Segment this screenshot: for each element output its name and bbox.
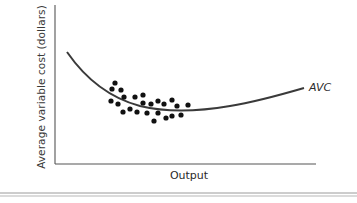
data-point xyxy=(140,92,145,97)
data-point xyxy=(151,118,156,123)
data-point xyxy=(121,94,126,99)
avc-curve-label: AVC xyxy=(309,81,331,94)
data-point xyxy=(174,103,179,108)
data-point xyxy=(120,109,125,114)
data-point xyxy=(169,113,174,118)
data-point xyxy=(155,98,160,103)
data-point xyxy=(115,101,120,106)
data-point xyxy=(178,112,183,117)
data-point xyxy=(132,94,137,99)
data-point xyxy=(148,101,153,106)
data-point xyxy=(169,97,174,102)
data-point xyxy=(144,110,149,115)
avc-figure: Average variable cost (dollars) Output A… xyxy=(0,0,357,203)
data-point xyxy=(161,101,166,106)
data-point xyxy=(118,87,123,92)
avc-curve xyxy=(67,52,304,111)
data-point xyxy=(140,100,145,105)
data-point xyxy=(185,102,190,107)
data-point xyxy=(109,86,114,91)
data-point xyxy=(155,110,160,115)
x-axis-label: Output xyxy=(170,169,208,182)
data-point xyxy=(112,80,117,85)
data-point xyxy=(163,115,168,120)
data-point xyxy=(108,98,113,103)
y-axis-label: Average variable cost (dollars) xyxy=(35,5,47,169)
data-points xyxy=(108,80,190,123)
data-point xyxy=(134,109,139,114)
data-point xyxy=(127,106,132,111)
